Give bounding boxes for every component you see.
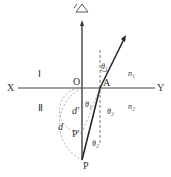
label-theta1-top: θ₁	[101, 63, 108, 71]
refraction-diagram	[0, 0, 171, 177]
label-n1: n₁	[128, 70, 135, 78]
label-n2: n₂	[128, 103, 135, 111]
eye-icon	[74, 4, 88, 12]
label-theta2-right: θ₂	[107, 108, 114, 116]
label-y: Y	[157, 83, 164, 93]
label-region-2: Ⅱ	[38, 103, 43, 113]
label-x: X	[7, 83, 14, 93]
label-theta2-bottom: θ₂	[92, 140, 99, 148]
label-o: O	[73, 77, 80, 87]
label-p-prime: P'	[72, 129, 79, 139]
incident-ray	[82, 88, 100, 160]
label-d-prime: d'	[72, 106, 79, 116]
label-a: A	[103, 78, 110, 88]
label-region-1: Ⅰ	[38, 69, 41, 79]
label-theta1-bottom: θ₁	[85, 101, 92, 109]
label-d: d	[58, 122, 63, 132]
label-p: P	[83, 161, 89, 171]
arrow-up-icon	[80, 20, 84, 26]
